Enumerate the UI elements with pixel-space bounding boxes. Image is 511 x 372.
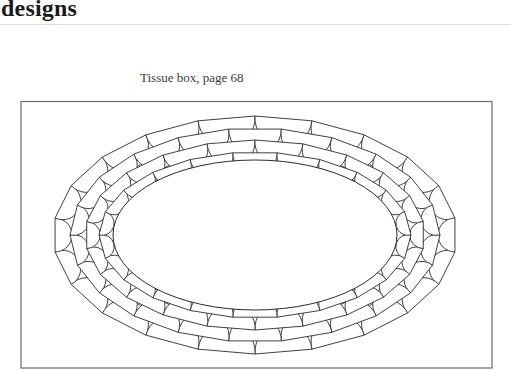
scallop-pattern-drawing: [0, 0, 511, 372]
inner-ellipse-opening: [113, 160, 397, 310]
scallop-arc: [410, 221, 424, 248]
scallop-arc: [87, 221, 101, 248]
scallop-arc: [438, 218, 455, 252]
tissue-box-pattern-figure: [0, 0, 511, 372]
scallop-arc: [55, 218, 72, 252]
